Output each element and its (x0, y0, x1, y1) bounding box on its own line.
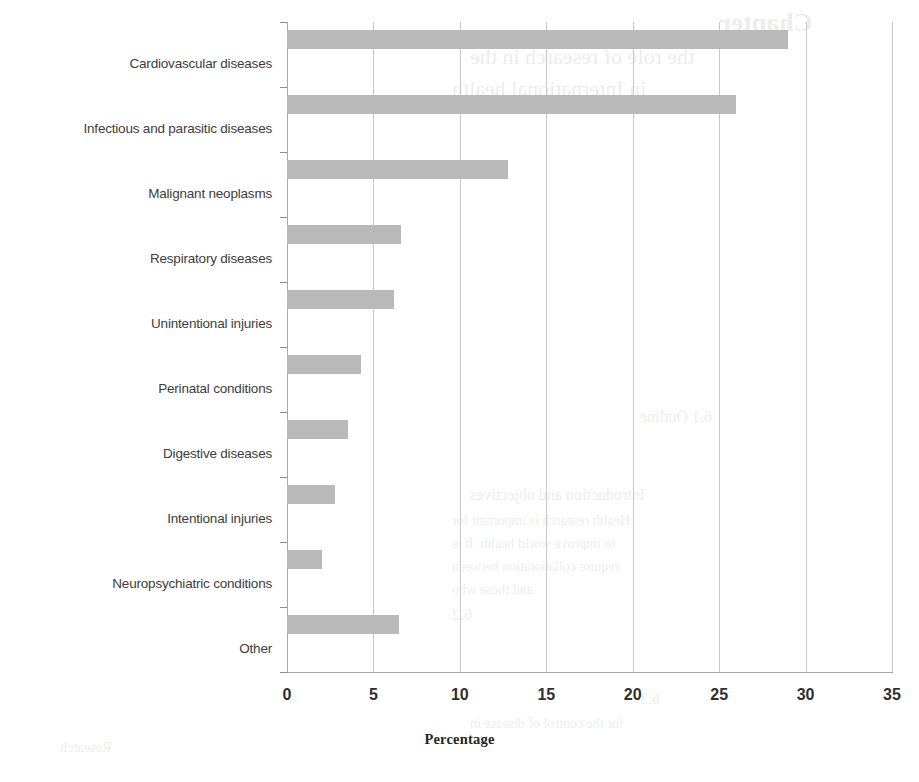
plot-area (287, 22, 892, 672)
category-label: Intentional injuries (0, 511, 272, 526)
bar[interactable] (287, 160, 508, 179)
category-tick (280, 347, 287, 348)
x-tick-label-35: 35 (862, 686, 919, 704)
bar-chart-figure: Cardiovascular diseasesInfectious and pa… (0, 0, 919, 782)
bar-row (287, 152, 892, 217)
bar-row (287, 412, 892, 477)
category-tick (280, 217, 287, 218)
category-label: Cardiovascular diseases (0, 56, 272, 71)
x-tick-label-10: 10 (430, 686, 490, 704)
category-tick (280, 542, 287, 543)
category-label: Unintentional injuries (0, 316, 272, 331)
category-label: Respiratory diseases (0, 251, 272, 266)
bar[interactable] (287, 355, 361, 374)
category-tick (280, 607, 287, 608)
category-label: Malignant neoplasms (0, 186, 272, 201)
category-label: Infectious and parasitic diseases (0, 121, 272, 136)
bar[interactable] (287, 550, 322, 569)
bar-row (287, 477, 892, 542)
category-label: Neuropsychiatric conditions (0, 576, 272, 591)
category-label: Perinatal conditions (0, 381, 272, 396)
bar[interactable] (287, 485, 335, 504)
bar[interactable] (287, 225, 401, 244)
bar-row (287, 347, 892, 412)
bar-row (287, 607, 892, 672)
bar-row (287, 22, 892, 87)
bar[interactable] (287, 420, 348, 439)
x-tick-label-20: 20 (603, 686, 663, 704)
bar[interactable] (287, 30, 788, 49)
category-label: Digestive diseases (0, 446, 272, 461)
x-axis-title: Percentage (0, 731, 919, 748)
category-tick (280, 152, 287, 153)
x-tick-label-25: 25 (689, 686, 749, 704)
category-tick (280, 412, 287, 413)
category-tick (280, 477, 287, 478)
x-tick-label-30: 30 (776, 686, 836, 704)
bar[interactable] (287, 290, 394, 309)
bar-row (287, 542, 892, 607)
category-tick (280, 87, 287, 88)
x-tick-label-15: 15 (516, 686, 576, 704)
x-tick-label-5: 5 (343, 686, 403, 704)
bar-row (287, 217, 892, 282)
category-tick (280, 672, 287, 673)
bar[interactable] (287, 95, 736, 114)
category-label: Other (0, 641, 272, 656)
x-axis-line (287, 672, 893, 673)
bar-row (287, 87, 892, 152)
bar[interactable] (287, 615, 399, 634)
category-tick (280, 22, 287, 23)
x-tick-label-0: 0 (257, 686, 317, 704)
category-tick (280, 282, 287, 283)
gridline-35 (892, 22, 893, 672)
bar-row (287, 282, 892, 347)
